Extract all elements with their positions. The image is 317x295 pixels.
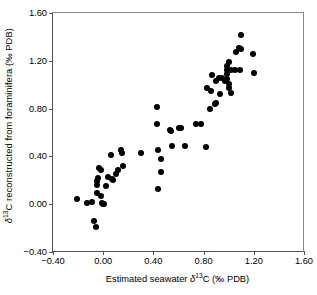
x-axis-title: Estimated seawater δ13C (‰ PDB) [52,272,303,284]
y-axis-tick-label: 0.00 [29,199,47,209]
y-axis-tick-label: 1.60 [29,8,47,18]
data-point [138,150,144,156]
data-point [74,196,80,202]
data-point [226,59,232,65]
scatter-chart-figure: δ13C reconstructed from foraminifera (‰ … [0,0,317,295]
plot-top-rule [52,12,304,13]
data-point [98,167,104,173]
x-axis-tick-label: −0.40 [41,256,65,266]
data-point [155,147,161,153]
data-point [217,91,223,97]
plot-area: −0.400.000.400.801.201.60 −0.400.000.400… [52,13,303,252]
y-axis-tick [49,204,53,205]
data-point [168,128,174,134]
data-point [108,152,114,158]
data-point [155,186,161,192]
data-point [158,156,164,162]
plot-right-rule [303,12,304,252]
x-axis-tick-label: 1.60 [295,256,313,266]
y-axis-tick [49,61,53,62]
x-axis-tick [304,251,305,255]
data-point [98,193,104,199]
y-axis-tick [49,13,53,14]
y-axis-tick [49,109,53,110]
x-axis-tick-label: 0.00 [94,256,112,266]
data-point [158,169,164,175]
y-axis-tick-label: 0.80 [29,104,47,114]
x-axis-tick [204,251,205,255]
x-axis-title-text: Estimated seawater δ13C (‰ PDB) [106,274,249,284]
y-axis-tick [49,156,53,157]
y-axis-tick-label: 0.40 [29,151,47,161]
data-point [169,143,175,149]
data-point [110,177,116,183]
data-point [237,67,243,73]
data-point [120,163,126,169]
data-point [95,175,101,181]
data-point [250,51,256,57]
data-point [208,88,214,94]
y-axis-title-text: δ13C reconstructed from foraminifera (‰ … [3,28,14,223]
data-point [93,224,99,230]
data-point [182,143,188,149]
data-point [251,70,257,76]
x-axis-tick [254,251,255,255]
data-point [101,201,107,207]
data-point [119,150,125,156]
data-point [203,144,209,150]
x-axis-tick [153,251,154,255]
data-point [207,106,213,112]
x-axis-tick-label: 0.80 [195,256,213,266]
y-axis-tick-label: 1.20 [29,56,47,66]
data-point [91,218,97,224]
data-point [154,104,160,110]
data-point [228,90,234,96]
data-point [198,121,204,127]
x-axis-tick [103,251,104,255]
y-axis-title: δ13C reconstructed from foraminifera (‰ … [0,0,18,252]
x-axis-tick [53,251,54,255]
data-point [213,100,219,106]
data-point [89,199,95,205]
x-axis-tick-label: 0.40 [144,256,162,266]
data-point [103,183,109,189]
data-point [238,32,244,38]
data-point [178,125,184,131]
data-point [154,121,160,127]
x-axis-tick-label: 1.20 [245,256,263,266]
data-point [238,46,244,52]
